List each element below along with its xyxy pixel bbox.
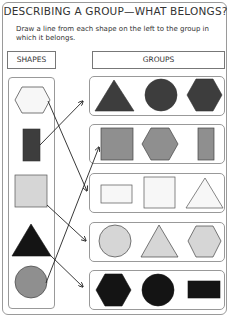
group1-hexagon <box>187 79 222 111</box>
group5-rectangle <box>188 281 220 298</box>
answer-line-rectangle-to-group1[interactable] <box>40 101 83 145</box>
group4-circle <box>99 225 131 257</box>
group1-circle <box>145 79 177 111</box>
left-triangle-black[interactable] <box>12 224 51 256</box>
group2-square <box>101 128 133 160</box>
answer-line-circle-to-group2[interactable] <box>46 147 99 283</box>
group5-circle <box>142 274 174 306</box>
left-circle-medium[interactable] <box>15 266 47 298</box>
group2-rectangle <box>198 128 214 160</box>
group3-square <box>144 177 175 208</box>
left-rectangle-dark[interactable] <box>23 129 40 161</box>
answer-line-square-to-group4[interactable] <box>47 205 86 241</box>
group3-triangle <box>186 178 223 208</box>
answer-line-hexagon-to-group3[interactable] <box>48 101 87 191</box>
group5-hexagon <box>96 274 131 306</box>
group4-hexagon <box>188 226 221 257</box>
shapes-canvas <box>0 0 231 319</box>
group3-rectangle <box>101 185 132 203</box>
left-square-light[interactable] <box>15 175 47 207</box>
left-hexagon-white[interactable] <box>15 87 50 113</box>
group2-hexagon <box>142 128 178 160</box>
group4-triangle <box>141 225 178 257</box>
group1-triangle <box>95 80 134 111</box>
